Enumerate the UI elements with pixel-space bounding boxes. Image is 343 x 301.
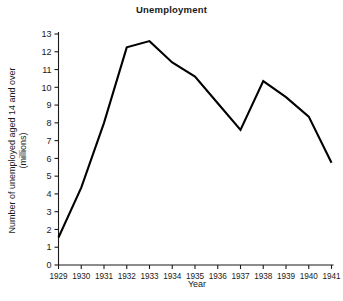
x-tick-label: 1940 bbox=[300, 272, 319, 281]
x-tick-label: 1939 bbox=[277, 272, 296, 281]
x-tick-label: 1930 bbox=[72, 272, 91, 281]
x-tick-label: 1936 bbox=[209, 272, 228, 281]
x-axis-ticks: 1929193019311932193319341935193619371938… bbox=[49, 265, 341, 281]
y-tick-label: 8 bbox=[46, 118, 51, 128]
y-axis-ticks: 012345678910111213 bbox=[41, 29, 58, 270]
chart-figure: Unemployment Number of unemployed aged 1… bbox=[0, 0, 343, 301]
y-tick-label: 13 bbox=[41, 29, 51, 39]
y-tick-label: 1 bbox=[46, 242, 51, 252]
y-tick-label: 7 bbox=[46, 136, 51, 146]
y-tick-label: 3 bbox=[46, 207, 51, 217]
y-tick-label: 11 bbox=[42, 65, 51, 75]
y-tick-label: 5 bbox=[46, 171, 51, 181]
x-tick-label: 1935 bbox=[186, 272, 205, 281]
x-tick-label: 1938 bbox=[254, 272, 273, 281]
x-tick-label: 1929 bbox=[49, 272, 68, 281]
x-tick-label: 1934 bbox=[163, 272, 182, 281]
x-tick-label: 1933 bbox=[140, 272, 159, 281]
y-tick-label: 10 bbox=[41, 83, 51, 93]
y-tick-label: 6 bbox=[46, 154, 51, 164]
y-tick-label: 0 bbox=[46, 260, 51, 270]
x-tick-label: 1931 bbox=[95, 272, 114, 281]
unemployment-line-series bbox=[59, 41, 332, 237]
plot-area: 012345678910111213 192919301931193219331… bbox=[0, 0, 343, 301]
x-tick-label: 1941 bbox=[322, 272, 341, 281]
x-tick-label: 1932 bbox=[118, 272, 137, 281]
y-tick-label: 12 bbox=[41, 47, 51, 57]
y-tick-label: 9 bbox=[46, 100, 51, 110]
y-tick-label: 4 bbox=[46, 189, 51, 199]
x-tick-label: 1937 bbox=[231, 272, 250, 281]
y-tick-label: 2 bbox=[46, 225, 51, 235]
